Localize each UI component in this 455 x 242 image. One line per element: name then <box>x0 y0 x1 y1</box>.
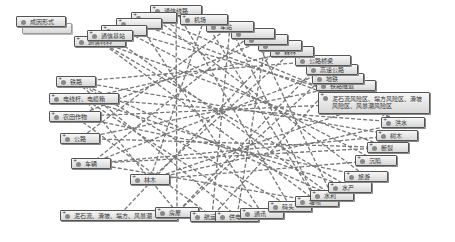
node-dot-icon <box>135 178 140 183</box>
diagram-node[interactable]: +林木 <box>130 174 170 185</box>
node-label: 电线杆、电缆箱 <box>63 95 105 102</box>
node-label: 泥石流、滑坡、塌方、风暴潮 <box>74 212 152 219</box>
node-dot-icon <box>61 80 66 85</box>
node-dot-icon <box>160 211 165 216</box>
diagram-node[interactable]: +公路 <box>60 133 100 144</box>
node-label: 断裂 <box>381 144 393 151</box>
node-dot-icon <box>317 77 322 82</box>
node-dot-icon <box>211 25 216 30</box>
diagram-node[interactable]: +机场 <box>180 14 228 25</box>
node-dot-icon <box>300 200 305 205</box>
diagram-node[interactable]: +农田作物 <box>49 111 101 122</box>
node-dot-icon <box>273 205 278 210</box>
edge-line <box>80 86 346 139</box>
node-dot-icon <box>300 59 305 64</box>
node-dot-icon <box>381 134 386 139</box>
node-dot-icon <box>54 97 59 102</box>
node-dot-icon <box>65 214 70 219</box>
network-diagram: 成因形式 +通信线路++++通信材料+通信基站+铁路+电线杆、电缆箱+农田作物+… <box>0 0 455 242</box>
node-label: 农田作物 <box>63 113 87 120</box>
node-dot-icon <box>236 32 241 37</box>
diagram-node[interactable]: +沉陷 <box>355 155 397 166</box>
node-label: 房屋 <box>169 209 181 216</box>
diagram-node[interactable]: +车辆 <box>71 158 111 169</box>
node-dot-icon <box>333 186 338 191</box>
diagram-node[interactable]: +铁路 <box>56 76 96 87</box>
node-label: 树木 <box>390 132 402 139</box>
node-label: 通信基站 <box>101 32 125 39</box>
node-dot-icon <box>323 96 328 101</box>
node-dot-icon <box>76 162 81 167</box>
node-label: 林木 <box>144 176 156 183</box>
node-dot-icon <box>79 40 84 45</box>
node-label: 地铁 <box>326 75 338 82</box>
node-dot-icon <box>92 34 97 39</box>
node-dot-icon <box>54 115 59 120</box>
diagram-node[interactable]: +水产 <box>328 182 372 193</box>
edge-line <box>80 139 388 148</box>
node-dot-icon <box>220 215 225 220</box>
node-dot-icon <box>185 18 190 23</box>
diagram-node[interactable]: +旅游 <box>344 171 388 182</box>
legend-node-label: 成因形式 <box>30 18 54 25</box>
node-dot-icon <box>360 159 365 164</box>
edge-line <box>91 164 317 202</box>
node-label: 车辆 <box>85 160 97 167</box>
node-label: 通讯 <box>254 210 266 217</box>
edge-line <box>91 70 332 164</box>
node-dot-icon <box>65 137 70 142</box>
node-label: 码头 <box>282 203 294 210</box>
diagram-node[interactable]: +断裂 <box>367 142 409 153</box>
node-dot-icon <box>245 212 250 217</box>
node-label: 机场 <box>194 16 206 23</box>
diagram-node[interactable]: +电线杆、电缆箱 <box>49 93 119 104</box>
node-dot-icon <box>372 146 377 151</box>
legend-node[interactable]: 成因形式 <box>16 16 66 27</box>
node-label: 水利 <box>324 192 336 199</box>
node-dot-icon <box>21 20 26 25</box>
node-label: 旅游 <box>358 173 370 180</box>
node-dot-icon <box>386 121 391 126</box>
node-label: 铁路 <box>70 78 82 85</box>
node-label: 沉陷 <box>369 157 381 164</box>
node-label: 公路 <box>74 135 86 142</box>
diagram-node[interactable]: +通信基站 <box>87 30 133 41</box>
node-label: 洪水 <box>395 119 407 126</box>
node-dot-icon <box>321 84 326 89</box>
node-dot-icon <box>311 68 316 73</box>
diagram-node[interactable]: +泥石流风险区、塌方风险区、滑坡风险区、风暴潮风险区 <box>318 92 430 114</box>
diagram-node[interactable]: +树木 <box>376 130 418 141</box>
node-label: 水产 <box>342 184 354 191</box>
edge-line <box>84 52 292 99</box>
node-label: 高速公路 <box>320 66 344 73</box>
node-dot-icon <box>195 215 200 220</box>
node-dot-icon <box>315 194 320 199</box>
node-dot-icon <box>349 175 354 180</box>
node-label: 公路桥梁 <box>309 57 333 64</box>
node-label: 泥石流风险区、塌方风险区、滑坡风险区、风暴潮风险区 <box>332 95 422 109</box>
diagram-node[interactable]: +洪水 <box>381 117 425 128</box>
